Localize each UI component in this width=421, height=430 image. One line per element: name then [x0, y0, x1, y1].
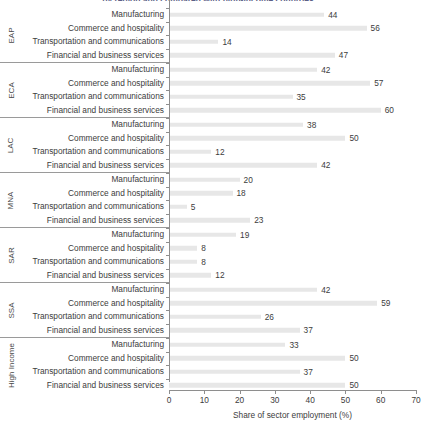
bar — [169, 273, 211, 278]
category-row: Transportation and communications — [22, 200, 169, 214]
category-row: Transportation and communications — [22, 145, 169, 159]
bar-row: 59 — [169, 297, 416, 311]
bar — [169, 343, 285, 348]
bar-value-label: 47 — [339, 51, 348, 60]
bar-row: 42 — [169, 283, 416, 297]
bar-value-label: 50 — [349, 134, 358, 143]
category-label: Transportation and communications — [32, 37, 164, 46]
x-axis-tick-label: 70 — [411, 395, 420, 405]
region-bar-group: 44561447 — [169, 8, 416, 62]
bar — [169, 136, 345, 141]
bar-value-label: 26 — [265, 312, 274, 321]
bar-row: 57 — [169, 77, 416, 91]
bar — [169, 68, 317, 73]
category-rows: ManufacturingCommerce and hospitalityTra… — [22, 228, 169, 282]
category-row: Commerce and hospitality — [22, 132, 169, 146]
bar-value-label: 23 — [254, 216, 263, 225]
bar-row: 44 — [169, 8, 416, 22]
category-label-column: EAPManufacturingCommerce and hospitality… — [0, 8, 169, 390]
region-group: ECAManufacturingCommerce and hospitality… — [0, 62, 169, 117]
bar-row: 12 — [169, 145, 416, 159]
x-axis-tick-label: 40 — [306, 395, 315, 405]
category-label: Financial and business services — [47, 271, 164, 280]
bar — [169, 40, 218, 45]
bar-value-label: 5 — [191, 202, 196, 211]
category-label: Financial and business services — [47, 381, 164, 390]
category-label: Manufacturing — [111, 65, 164, 74]
category-row: Transportation and communications — [22, 310, 169, 324]
chart-title: by region and compared with high-income … — [0, 0, 416, 1]
bar-value-label: 59 — [381, 299, 390, 308]
bar-row: 35 — [169, 90, 416, 104]
bar-value-label: 12 — [215, 271, 224, 280]
bar-row: 38 — [169, 118, 416, 132]
category-label: Manufacturing — [111, 10, 164, 19]
category-label: Manufacturing — [111, 120, 164, 129]
category-label: Commerce and hospitality — [68, 79, 164, 88]
category-label: Commerce and hospitality — [68, 244, 164, 253]
bar-row: 37 — [169, 324, 416, 338]
bar-value-label: 42 — [321, 161, 330, 170]
bar — [169, 301, 377, 306]
category-row: Manufacturing — [22, 8, 169, 22]
category-row: Commerce and hospitality — [22, 352, 169, 366]
region-label-text: ECA — [6, 82, 15, 98]
bar-value-label: 42 — [321, 65, 330, 74]
x-axis-tick-label: 0 — [167, 395, 172, 405]
category-label: Manufacturing — [111, 230, 164, 239]
bar-value-label: 19 — [240, 230, 249, 239]
bar-value-label: 12 — [215, 147, 224, 156]
bar — [169, 218, 250, 223]
category-label: Transportation and communications — [32, 257, 164, 266]
bar — [169, 81, 370, 86]
bar-row: 50 — [169, 352, 416, 366]
category-row: Commerce and hospitality — [22, 77, 169, 91]
bar-row: 60 — [169, 104, 416, 118]
bar-value-label: 33 — [289, 340, 298, 349]
x-axis-tick-label: 30 — [270, 395, 279, 405]
region-group: High IncomeManufacturingCommerce and hos… — [0, 337, 169, 392]
category-label: Commerce and hospitality — [68, 189, 164, 198]
bar-value-label: 56 — [371, 24, 380, 33]
bar — [169, 328, 300, 333]
bar-row: 33 — [169, 338, 416, 352]
bar-row: 42 — [169, 159, 416, 173]
category-row: Transportation and communications — [22, 90, 169, 104]
bar-row: 19 — [169, 228, 416, 242]
x-axis-tick — [240, 390, 241, 394]
category-row: Financial and business services — [22, 379, 169, 393]
bar-value-label: 57 — [374, 79, 383, 88]
category-label: Transportation and communications — [32, 147, 164, 156]
bar — [169, 95, 293, 100]
region-label: LAC — [0, 118, 22, 172]
category-row: Commerce and hospitality — [22, 22, 169, 36]
region-label-text: EAP — [6, 27, 15, 43]
region-group: SSAManufacturingCommerce and hospitality… — [0, 282, 169, 337]
category-label: Financial and business services — [47, 326, 164, 335]
category-row: Financial and business services — [22, 159, 169, 173]
region-bar-group: 33503750 — [169, 337, 416, 392]
category-row: Transportation and communications — [22, 35, 169, 49]
x-axis-tick — [345, 390, 346, 394]
x-axis-tick — [204, 390, 205, 394]
bar-value-label: 8 — [201, 244, 206, 253]
bar — [169, 246, 197, 251]
bar-value-label: 18 — [237, 189, 246, 198]
region-group: LACManufacturingCommerce and hospitality… — [0, 117, 169, 172]
category-rows: ManufacturingCommerce and hospitalityTra… — [22, 338, 169, 392]
region-label-text: SAR — [6, 247, 15, 263]
bar — [169, 288, 317, 293]
category-row: Financial and business services — [22, 104, 169, 118]
x-axis-tick — [416, 390, 417, 394]
category-row: Financial and business services — [22, 324, 169, 338]
category-label: Financial and business services — [47, 51, 164, 60]
bar-row: 14 — [169, 35, 416, 49]
category-label: Commerce and hospitality — [68, 24, 164, 33]
category-label: Manufacturing — [111, 175, 164, 184]
category-row: Manufacturing — [22, 63, 169, 77]
category-label: Transportation and communications — [32, 92, 164, 101]
bar — [169, 108, 381, 113]
region-label-text: High Income — [7, 343, 16, 388]
x-axis-tick — [381, 390, 382, 394]
region-label: SAR — [0, 228, 22, 282]
